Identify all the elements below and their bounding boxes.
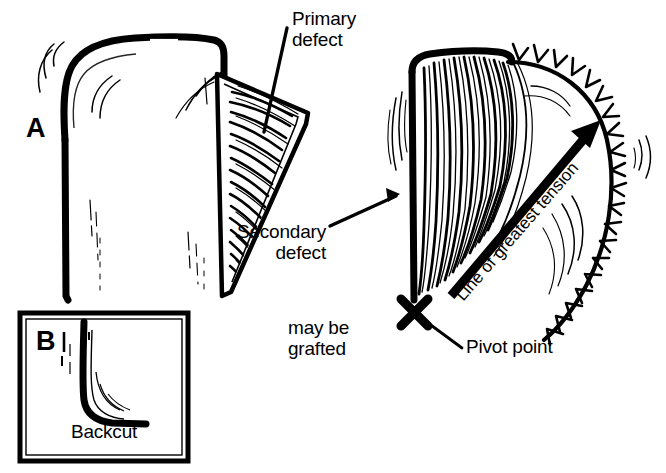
right-figure-left-contours bbox=[388, 92, 407, 170]
backcut-label: Backcut bbox=[20, 421, 188, 442]
figure-container: A B Primary defect Secondary defect may … bbox=[0, 0, 666, 473]
panel-b-letter: B bbox=[36, 326, 56, 356]
may-be-grafted-label-line2: grafted bbox=[288, 338, 346, 359]
secondary-defect-leader bbox=[330, 188, 400, 226]
panel-a-letter: A bbox=[26, 113, 46, 143]
primary-defect-label-line2: defect bbox=[292, 29, 343, 50]
may-be-grafted-label-line1: may be bbox=[288, 317, 349, 338]
pivot-point-leader bbox=[424, 320, 462, 348]
primary-defect-label-line1: Primary bbox=[292, 8, 356, 29]
suture-line bbox=[508, 44, 626, 345]
secondary-defect-label-line2: defect bbox=[186, 242, 326, 263]
secondary-defect-label-line1: Secondary bbox=[186, 221, 326, 242]
illustration-canvas bbox=[0, 0, 666, 473]
pivot-point-label: Pivot point bbox=[466, 336, 553, 357]
